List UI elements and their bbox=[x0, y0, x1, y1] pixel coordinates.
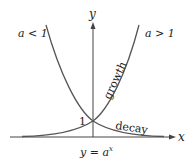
exponential-diagram: x y a < 1 a > 1 growth decay 1 y = ax bbox=[0, 0, 194, 162]
x-axis-label: x bbox=[178, 130, 185, 144]
y-axis-arrow-icon bbox=[91, 22, 96, 29]
growth-label: growth bbox=[101, 60, 130, 102]
decay-curve bbox=[46, 25, 164, 137]
growth-condition-label: a > 1 bbox=[145, 27, 175, 40]
decay-label: decay bbox=[115, 119, 150, 137]
decay-condition-label: a < 1 bbox=[18, 27, 48, 40]
intercept-label: 1 bbox=[79, 115, 86, 128]
y-axis-label: y bbox=[88, 7, 96, 21]
equation-caption: y = ax bbox=[79, 145, 113, 159]
x-axis-arrow-icon bbox=[169, 135, 176, 140]
